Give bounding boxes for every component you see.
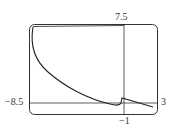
ymin-label: −1 bbox=[119, 116, 130, 126]
viewing-window-frame bbox=[30, 25, 158, 115]
top-edge-trace bbox=[33, 26, 124, 27]
graph-screen bbox=[0, 0, 176, 131]
ymax-label: 7.5 bbox=[115, 12, 128, 22]
xmin-label: −8.5 bbox=[5, 97, 23, 107]
curve bbox=[32, 27, 153, 107]
xmax-label: 3 bbox=[161, 97, 166, 107]
